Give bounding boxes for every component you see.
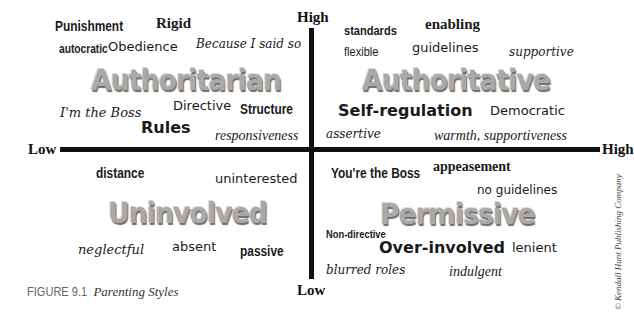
quadrant-title-permissive: Permissive (380, 200, 535, 229)
figure-number: FIGURE 9.1 (27, 284, 87, 299)
word-warmth-supportiveness: warmth, supportiveness (434, 129, 567, 143)
word-rules: Rules (141, 120, 191, 136)
horizontal-axis-line (60, 147, 600, 152)
word-over-involved: Over-involved (379, 240, 505, 256)
word-flexible: flexible (344, 45, 378, 58)
word-structure: Structure (240, 102, 293, 116)
word-obedience: Obedience (108, 40, 178, 53)
word-standards: standards (344, 24, 397, 37)
figure-title: Parenting Styles (93, 284, 178, 299)
word-because-i-said-so: Because I said so (196, 38, 301, 50)
word-autocratic: autocratic (59, 43, 108, 55)
word-rigid: Rigid (156, 16, 191, 31)
quadrant-title-uninvolved: Uninvolved (108, 199, 267, 228)
word-im-the-boss: I'm the Boss (60, 106, 141, 119)
word-blurred-roles: blurred roles (326, 264, 405, 276)
word-uninterested: uninterested (215, 172, 298, 185)
axis-label-vertical-high: High (297, 9, 329, 26)
quadrant-title-authoritarian: Authoritarian (91, 66, 281, 95)
word-assertive: assertive (326, 128, 381, 140)
axis-label-vertical-low: Low (297, 282, 325, 299)
word-indulgent: indulgent (449, 265, 502, 279)
word-non-directive: Non-directive (326, 229, 386, 240)
word-directive: Directive (173, 99, 231, 112)
word-guidelines: guidelines (412, 41, 479, 54)
vertical-axis-line (309, 28, 314, 279)
word-distance: distance (96, 166, 144, 180)
copyright-notice: © Kendall Hunt Publishing Company (613, 174, 623, 310)
quadrant-title-authoritative: Authoritative (362, 66, 550, 95)
word-neglectful: neglectful (78, 243, 144, 256)
word-lenient: lenient (512, 241, 557, 254)
word-self-regulation: Self-regulation (338, 103, 473, 119)
word-appeasement: appeasement (433, 160, 511, 174)
word-democratic: Democratic (490, 104, 565, 117)
word-supportive: supportive (509, 46, 574, 58)
word-punishment: Punishment (55, 19, 123, 33)
axis-label-horizontal-high: High (602, 141, 634, 158)
word-responsiveness: responsiveness (215, 129, 298, 143)
word-passive: passive (240, 244, 284, 258)
word-no-guidelines: no guidelines (477, 184, 557, 196)
figure-caption: FIGURE 9.1 Parenting Styles (27, 284, 179, 300)
word-enabling: enabling (425, 17, 480, 32)
axis-label-horizontal-low: Low (28, 141, 56, 158)
word-youre-the-boss: You're the Boss (331, 166, 420, 180)
word-absent: absent (172, 240, 216, 253)
